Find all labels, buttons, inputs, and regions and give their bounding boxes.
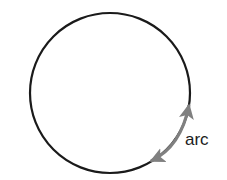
arc-label: arc (185, 130, 209, 149)
figure-canvas: arc (0, 0, 227, 180)
arc-double-arrow-shape (151, 105, 189, 161)
figure-graphics (0, 0, 227, 180)
